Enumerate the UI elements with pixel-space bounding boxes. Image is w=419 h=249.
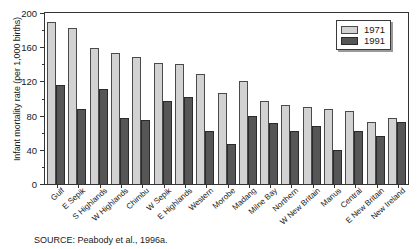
bar-1991 (354, 131, 363, 184)
bar-1991 (163, 101, 172, 184)
bar-1971 (132, 57, 141, 184)
bar-1971 (175, 64, 184, 184)
bar-1991 (333, 150, 342, 184)
legend-item-1971: 1971 (341, 24, 385, 35)
y-tick-label-0: 0 (32, 179, 37, 190)
y-tick-label-120: 120 (21, 76, 37, 87)
bar-1991 (99, 89, 108, 184)
y-tick-label-40: 40 (26, 144, 37, 155)
bar-group (175, 13, 193, 184)
source-note: SOURCE: Peabody et al., 1996a. (34, 235, 168, 245)
y-tick-label-200: 200 (21, 8, 37, 19)
y-tick-0 (40, 184, 45, 185)
bar-group (239, 13, 257, 184)
infant-mortality-bar-chart: Infant mortality rate (per 1,000 births)… (0, 0, 419, 249)
bar-group (90, 13, 108, 184)
legend-item-1991: 1991 (341, 35, 385, 46)
bar-group (218, 13, 236, 184)
bar-1971 (196, 74, 205, 184)
bar-1991 (184, 97, 193, 184)
bar-1971 (388, 118, 397, 184)
y-tick-label-160: 160 (21, 42, 37, 53)
bar-1971 (345, 111, 354, 184)
y-axis-title: Infant mortality rate (per 1,000 births) (12, 9, 22, 169)
legend-swatch-1991 (341, 37, 358, 45)
bar-1991 (248, 116, 257, 184)
bar-1991 (376, 136, 385, 184)
bar-group (47, 13, 65, 184)
bar-1971 (90, 48, 99, 184)
chart-legend: 1971 1991 (336, 20, 391, 50)
bar-1971 (68, 28, 77, 184)
bar-1971 (260, 101, 269, 184)
bar-1991 (56, 85, 65, 184)
bar-group (260, 13, 278, 184)
bar-1971 (303, 107, 312, 184)
bar-group (281, 13, 299, 184)
bar-1991 (227, 144, 236, 184)
bar-1971 (367, 122, 376, 184)
bar-group (154, 13, 172, 184)
bar-1971 (47, 22, 56, 184)
x-axis-label-13: Manus (319, 186, 343, 209)
bar-1991 (205, 131, 214, 184)
bar-1991 (397, 122, 406, 184)
bar-1971 (111, 53, 120, 184)
bar-group (132, 13, 150, 184)
bar-1991 (312, 126, 321, 184)
bar-1991 (77, 109, 86, 184)
bar-1971 (324, 109, 333, 184)
x-axis-labels: GulfE SepikS HighlandsW HighlandsChimbuW… (44, 186, 409, 241)
y-tick-label-80: 80 (26, 110, 37, 121)
bar-group (303, 13, 321, 184)
bar-1991 (141, 120, 150, 184)
legend-label-1991: 1991 (364, 35, 385, 46)
bar-1971 (218, 93, 227, 184)
bar-1971 (239, 81, 248, 184)
bar-1991 (269, 123, 278, 184)
bar-group (68, 13, 86, 184)
bar-1971 (154, 63, 163, 184)
bar-group (196, 13, 214, 184)
legend-label-1971: 1971 (364, 24, 385, 35)
bar-1991 (290, 131, 299, 184)
bar-group (111, 13, 129, 184)
legend-swatch-1971 (341, 26, 358, 34)
bar-1971 (281, 105, 290, 184)
bar-1991 (120, 118, 129, 184)
